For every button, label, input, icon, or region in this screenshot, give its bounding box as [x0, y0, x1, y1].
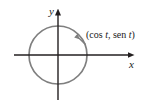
math-figure-unit-circle: y x (cos t, sen t)	[0, 0, 152, 108]
point-label-separator: , sen	[108, 29, 129, 40]
point-label-close: )	[132, 29, 135, 40]
x-axis-label: x	[129, 59, 134, 70]
point-label-open: (cos	[86, 29, 105, 40]
y-axis-label: y	[49, 6, 54, 17]
point-coordinate-label: (cos t, sen t)	[86, 29, 135, 41]
figure-canvas	[0, 0, 152, 108]
